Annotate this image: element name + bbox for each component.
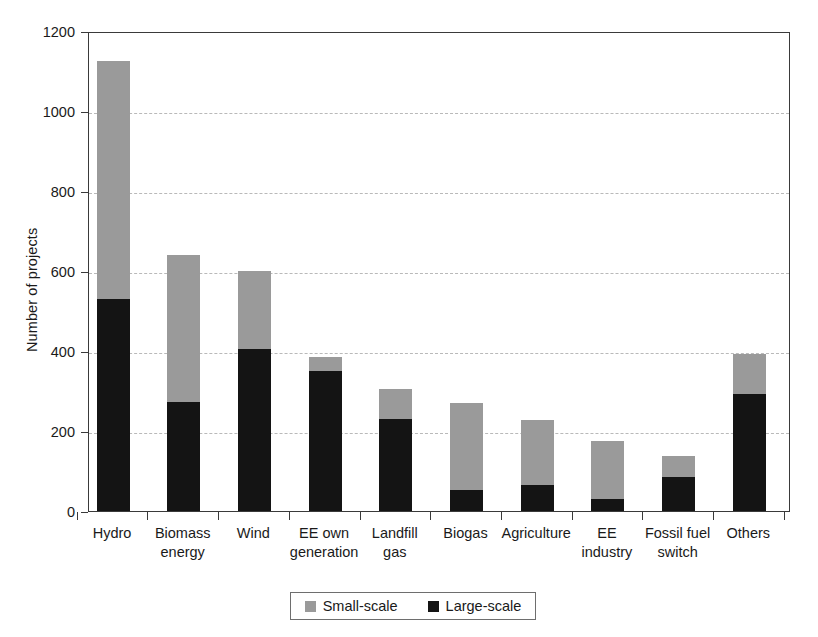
bar-segment-large-scale [591,499,624,511]
x-axis-tick [784,512,785,520]
bar-segment-large-scale [379,419,412,511]
chart-figure: Number of projects 020040060080010001200… [0,0,818,637]
legend-item: Large-scale [428,598,522,614]
bar-wind [238,271,271,511]
x-axis-tick [642,512,643,520]
chart-legend: Small-scale Large-scale [290,592,536,620]
bar-segment-large-scale [521,485,554,511]
gridline [89,193,789,194]
y-axis-title: Number of projects [24,112,40,352]
x-axis-label-line: gas [340,543,450,562]
x-axis-tick [147,512,148,520]
y-axis-tick-label: 400 [15,344,75,360]
y-axis-tick [81,32,88,33]
x-axis-label-line: energy [128,543,238,562]
y-axis-tick-label: 600 [15,264,75,280]
bar-segment-small-scale [97,61,130,299]
y-axis-tick [81,352,88,353]
y-axis-title-text: Number of projects [24,112,40,352]
bar-biogas [450,403,483,511]
bar-landfill-gas [379,389,412,511]
bar-biomass-energy [167,255,200,511]
bar-agriculture [521,420,554,511]
y-axis-tick-label: 1000 [15,104,75,120]
bar-segment-large-scale [309,371,342,511]
bar-ee-industry [591,441,624,511]
y-axis-tick [81,432,88,433]
bar-others [733,354,766,511]
x-axis-tick [501,512,502,520]
y-axis-tick-label: 1200 [15,24,75,40]
y-axis-tick-label: 200 [15,424,75,440]
x-axis-tick [289,512,290,520]
y-axis-tick [81,112,88,113]
y-axis-tick [81,512,88,513]
bar-segment-large-scale [97,299,130,511]
bar-segment-large-scale [662,477,695,511]
legend-swatch-large-scale [428,601,439,612]
bar-segment-small-scale [662,456,695,477]
x-axis-label-others: Others [693,524,803,543]
x-axis-tick [218,512,219,520]
x-axis-tick [77,512,78,520]
y-axis-tick-label: 800 [15,184,75,200]
x-axis-tick [360,512,361,520]
bar-segment-small-scale [733,354,766,394]
legend-label-small-scale: Small-scale [323,598,398,614]
bar-segment-small-scale [450,403,483,490]
bar-hydro [97,61,130,511]
bar-segment-small-scale [167,255,200,402]
bar-segment-large-scale [733,394,766,511]
bar-fossil-fuel-switch [662,456,695,511]
legend-item: Small-scale [305,598,398,614]
x-axis-tick [430,512,431,520]
plot-area [88,32,790,512]
bar-segment-large-scale [238,349,271,511]
legend-label-large-scale: Large-scale [446,598,522,614]
x-axis-label-line: switch [623,543,733,562]
bar-segment-small-scale [238,271,271,349]
y-axis-tick-label: 0 [15,504,75,520]
x-axis-tick [713,512,714,520]
x-axis-label-line: Others [693,524,803,543]
bar-segment-large-scale [167,402,200,511]
bar-segment-small-scale [521,420,554,485]
bar-ee-own-generation [309,357,342,511]
bar-segment-small-scale [591,441,624,499]
y-axis-tick [81,192,88,193]
gridline [89,113,789,114]
bar-segment-small-scale [309,357,342,371]
bar-segment-large-scale [450,490,483,511]
x-axis-tick [572,512,573,520]
legend-swatch-small-scale [305,601,316,612]
bar-segment-small-scale [379,389,412,419]
y-axis-tick [81,272,88,273]
